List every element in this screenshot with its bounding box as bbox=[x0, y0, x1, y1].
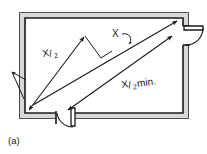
figure-container: X / 2 X / 2 min. X (a) bbox=[0, 0, 207, 154]
door-right bbox=[181, 26, 203, 45]
door-bottom-leaf bbox=[71, 108, 75, 126]
label-egress-left-separator: / bbox=[48, 48, 53, 59]
separation-connector bbox=[85, 36, 112, 58]
dimension-line-lower bbox=[68, 36, 172, 110]
label-egress-right-suffix: min. bbox=[136, 75, 156, 89]
dimension-line-corner bbox=[33, 21, 177, 105]
label-egress-left: X / 2 bbox=[41, 46, 58, 62]
dimension-lower-arrow-line bbox=[68, 36, 172, 110]
dimension-upper-arrow-line bbox=[29, 37, 84, 110]
figure-caption: (a) bbox=[8, 135, 20, 146]
label-egress-right: X / 2 min. bbox=[121, 74, 157, 92]
door-right-leaf bbox=[184, 26, 203, 30]
label-separation-x: X bbox=[112, 28, 119, 39]
label-egress-right-separator: / bbox=[127, 79, 132, 90]
separation-connector-path bbox=[85, 36, 112, 58]
label-egress-left-denominator: 2 bbox=[53, 52, 58, 60]
door-bottom bbox=[56, 108, 75, 127]
wall-inner-line bbox=[25, 18, 183, 113]
leader-x bbox=[122, 34, 131, 44]
dimension-corner-arrow-line bbox=[33, 21, 177, 105]
dimension-line-upper bbox=[29, 37, 84, 110]
room-plan-diagram: X / 2 X / 2 min. X (a) bbox=[0, 0, 207, 154]
leader-x-curve bbox=[122, 34, 131, 44]
